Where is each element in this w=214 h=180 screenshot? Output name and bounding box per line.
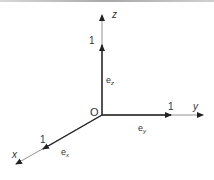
ez-label: ez [106, 75, 114, 86]
x-unit-label: 1 [40, 134, 46, 145]
x-axis-label: x [11, 149, 18, 160]
z-axis-label: z [111, 9, 117, 20]
coordinate-system-diagram: z 1 ez O 1 y ey 1 x ex [0, 0, 214, 180]
ey-label: ey [138, 123, 147, 134]
z-unit-label: 1 [89, 35, 95, 46]
ex-label: ex [61, 147, 70, 158]
origin-label: O [90, 106, 99, 118]
y-axis-label: y [192, 101, 199, 112]
y-unit-label: 1 [168, 101, 174, 112]
unit-vector-ex [43, 115, 102, 149]
